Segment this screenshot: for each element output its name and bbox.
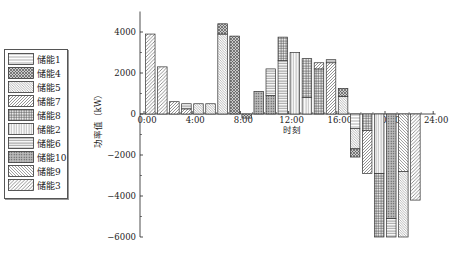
bar-segment xyxy=(302,98,312,114)
legend-swatch-icon xyxy=(8,165,34,177)
bar-segment xyxy=(374,114,384,173)
bar-segment xyxy=(350,114,360,128)
bar-segment xyxy=(218,24,228,34)
bar-segment xyxy=(254,91,264,114)
legend-label: 储能1 xyxy=(37,53,61,66)
bar-segment xyxy=(182,104,192,109)
x-tick-label: 16:00 xyxy=(328,115,353,125)
legend-item: 储能10 xyxy=(8,150,67,164)
legend-item: 储能9 xyxy=(8,164,67,178)
bar-segment xyxy=(158,67,168,114)
bar-segment xyxy=(362,130,372,173)
bar-segment xyxy=(362,114,372,130)
bar-segment xyxy=(266,96,276,114)
bar-segment xyxy=(338,88,348,96)
bar-segment xyxy=(302,59,312,98)
legend-swatch-icon xyxy=(8,151,34,163)
legend-item: 储能4 xyxy=(8,66,67,80)
bar-segment xyxy=(326,60,336,63)
bar-segment xyxy=(218,34,228,114)
y-tick-label: −4000 xyxy=(107,191,136,201)
y-tick-label: 4000 xyxy=(114,27,136,37)
y-tick-label: 0 xyxy=(131,109,136,119)
legend-swatch-icon xyxy=(8,81,34,93)
x-tick-label: 0:00 xyxy=(137,115,156,125)
legend-label: 储能10 xyxy=(37,151,66,164)
bar-segment xyxy=(266,69,276,96)
legend-item: 储能2 xyxy=(8,122,67,136)
legend-label: 储能9 xyxy=(37,165,61,178)
x-tick-label: 4:00 xyxy=(186,115,205,125)
legend-swatch-icon xyxy=(8,67,34,79)
bar-segment xyxy=(387,219,397,237)
legend: 储能1储能4储能5储能7储能8储能2储能6储能10储能9储能3 xyxy=(4,49,68,199)
bar-segment xyxy=(206,104,216,114)
y-tick-label: −2000 xyxy=(107,150,136,160)
bar-segment xyxy=(350,149,360,157)
bar-segment xyxy=(411,114,421,200)
legend-label: 储能5 xyxy=(37,81,61,94)
legend-swatch-icon xyxy=(8,95,34,107)
legend-label: 储能8 xyxy=(37,109,61,122)
bar-segment xyxy=(374,173,384,237)
x-tick-label: 12:00 xyxy=(279,115,304,125)
bar-segment xyxy=(278,61,288,114)
x-tick-label: 24:00 xyxy=(424,115,449,125)
bar-segment xyxy=(399,171,409,237)
bar-segment xyxy=(314,63,324,69)
bar-segment xyxy=(350,128,360,149)
y-tick-label: −6000 xyxy=(107,232,136,242)
y-tick-label: 2000 xyxy=(114,68,136,78)
legend-label: 储能3 xyxy=(37,179,61,192)
stacked-bar-chart: −6000−4000−20000200040000:004:008:0012:0… xyxy=(0,0,456,258)
legend-swatch-icon xyxy=(8,137,34,149)
legend-swatch-icon xyxy=(8,123,34,135)
bar-segment xyxy=(182,109,192,114)
legend-item: 储能6 xyxy=(8,136,67,150)
legend-item: 储能5 xyxy=(8,80,67,94)
legend-swatch-icon xyxy=(8,109,34,121)
legend-label: 储能7 xyxy=(37,95,61,108)
bar-segment xyxy=(290,53,300,115)
y-axis-label: 功率值（kW） xyxy=(93,90,103,149)
legend-label: 储能6 xyxy=(37,137,61,150)
bar-segment xyxy=(146,34,156,114)
bar-segment xyxy=(230,36,240,114)
bar-segment xyxy=(387,114,397,219)
bar-segment xyxy=(326,63,336,114)
legend-item: 储能1 xyxy=(8,52,67,66)
legend-swatch-icon xyxy=(8,53,34,65)
bar-segment xyxy=(278,37,288,61)
legend-item: 储能7 xyxy=(8,94,67,108)
bar-segment xyxy=(170,102,180,114)
bar-segment xyxy=(338,97,348,114)
bar-segment xyxy=(242,114,252,118)
legend-item: 储能3 xyxy=(8,178,67,192)
legend-label: 储能2 xyxy=(37,123,61,136)
bar-segment xyxy=(314,69,324,114)
legend-swatch-icon xyxy=(8,179,34,191)
legend-item: 储能8 xyxy=(8,108,67,122)
bar-segment xyxy=(399,114,409,171)
x-axis-label: 时刻 xyxy=(283,125,301,135)
bar-segment xyxy=(194,104,204,114)
legend-label: 储能4 xyxy=(37,67,61,80)
